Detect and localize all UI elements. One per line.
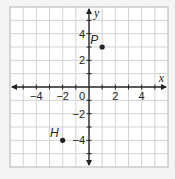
- y-tick-label: −2: [72, 108, 85, 120]
- x-tick-label: 2: [112, 90, 118, 102]
- point-marker: [60, 138, 65, 143]
- origin-label: 0: [79, 90, 85, 102]
- point-label: P: [90, 33, 98, 47]
- x-axis-label: x: [158, 71, 165, 85]
- y-axis-label: y: [93, 6, 100, 20]
- x-tick-label: 4: [139, 90, 145, 102]
- point-label: H: [50, 126, 59, 140]
- y-tick-label: 4: [79, 28, 85, 40]
- x-tick-label: −2: [56, 90, 69, 102]
- y-tick-label: 2: [79, 54, 85, 66]
- x-tick-label: −4: [30, 90, 43, 102]
- y-tick-label: −4: [72, 134, 85, 146]
- point-marker: [100, 44, 105, 49]
- coordinate-plane: −4−22442−2−40xy PH: [0, 0, 175, 179]
